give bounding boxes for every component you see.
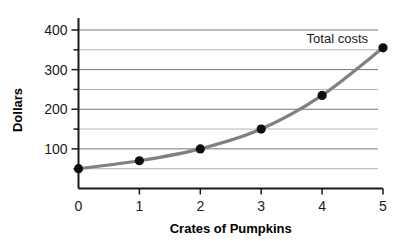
data-point-marker bbox=[257, 124, 266, 133]
data-point-marker bbox=[378, 43, 387, 52]
y-axis-tick-label: 100 bbox=[44, 141, 68, 157]
x-axis-tick-label: 3 bbox=[257, 198, 265, 214]
data-point-marker bbox=[196, 144, 205, 153]
x-axis-tick-label: 0 bbox=[75, 198, 83, 214]
series-annotation-total-costs: Total costs bbox=[307, 31, 369, 46]
y-axis-tick-label: 200 bbox=[44, 101, 68, 117]
data-point-marker bbox=[74, 164, 83, 173]
chart-container: 100200300400 012345 Dollars Crates of Pu… bbox=[0, 0, 401, 242]
x-axis-tick-label: 4 bbox=[318, 198, 326, 214]
x-axis-tick-label: 1 bbox=[136, 198, 144, 214]
total-costs-line-chart: 100200300400 012345 Dollars Crates of Pu… bbox=[0, 0, 401, 242]
y-axis-title: Dollars bbox=[10, 88, 25, 132]
y-axis-tick-label: 400 bbox=[44, 22, 68, 38]
data-point-marker bbox=[135, 156, 144, 165]
data-point-marker bbox=[318, 91, 327, 100]
x-axis-tick-label: 2 bbox=[196, 198, 204, 214]
x-axis-title: Crates of Pumpkins bbox=[170, 221, 292, 236]
x-axis-tick-label: 5 bbox=[379, 198, 387, 214]
y-axis-tick-label: 300 bbox=[44, 62, 68, 78]
